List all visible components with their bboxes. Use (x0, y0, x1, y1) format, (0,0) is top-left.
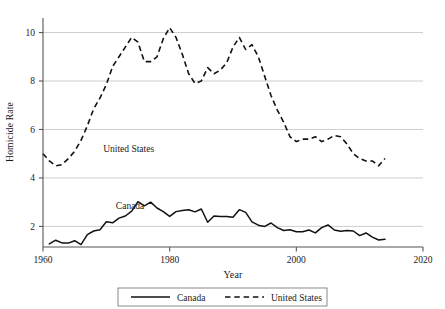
inline-label-united-states: United States (103, 144, 154, 154)
legend-label-united-states[interactable]: United States (271, 293, 322, 303)
x-tick-label-2000: 2000 (287, 255, 306, 265)
homicide-rate-line-chart: 246810 1960198020002020 United StatesCan… (0, 0, 445, 309)
y-tick-label-2: 2 (30, 222, 35, 232)
x-axis-title: Year (223, 269, 243, 280)
x-tick-label-2020: 2020 (414, 255, 433, 265)
x-tick-label-1960: 1960 (34, 255, 53, 265)
x-tick-label-1980: 1980 (160, 255, 179, 265)
chart-background (0, 0, 445, 309)
y-tick-label-8: 8 (30, 76, 35, 86)
y-axis-title: Homicide Rate (5, 102, 15, 162)
y-tick-label-6: 6 (30, 125, 35, 135)
y-tick-label-10: 10 (26, 28, 36, 38)
inline-label-canada: Canada (116, 201, 145, 211)
legend-label-canada[interactable]: Canada (177, 293, 206, 303)
legend[interactable]: Canada United States (118, 288, 327, 306)
y-tick-label-4: 4 (30, 173, 35, 183)
chart-figure: 246810 1960198020002020 United StatesCan… (0, 0, 445, 309)
